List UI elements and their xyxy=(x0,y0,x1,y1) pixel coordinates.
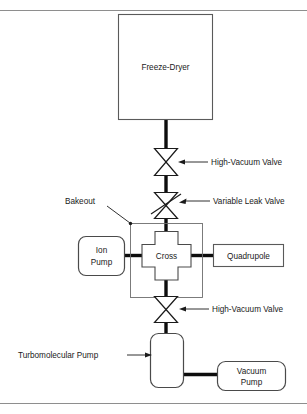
bakeout-label: Bakeout xyxy=(65,197,96,206)
variable-leak-valve-symbol[interactable] xyxy=(151,193,181,219)
variable-leak-valve-label: Variable Leak Valve xyxy=(213,197,285,206)
hv-valve-top-label: High-Vacuum Valve xyxy=(211,158,283,167)
ion-pump-box[interactable] xyxy=(79,237,125,276)
cross-label: Cross xyxy=(156,252,177,261)
vacuum-system-diagram: Freeze-Dryer High-Vacuum Valve Variable … xyxy=(0,0,307,414)
hv-valve-bottom-symbol[interactable] xyxy=(155,297,178,323)
bakeout-leader xyxy=(107,206,132,225)
vacuum-pump-label-line2: Pump xyxy=(241,378,263,387)
turbomolecular-pump-leader xyxy=(127,352,152,357)
ion-pump-label-line2: Pump xyxy=(91,258,113,267)
hv-valve-top-leader xyxy=(178,159,208,164)
turbomolecular-pump-label: Turbomolecular Pump xyxy=(18,351,99,360)
ion-pump-label-line1: Ion xyxy=(96,246,108,255)
turbomolecular-pump-box[interactable] xyxy=(151,334,184,388)
hv-valve-top-symbol[interactable] xyxy=(155,149,178,176)
hv-valve-bottom-label: High-Vacuum Valve xyxy=(212,305,284,314)
variable-leak-valve-leader xyxy=(179,199,210,204)
vacuum-pump-label-line1: Vacuum xyxy=(237,367,267,376)
quadrupole-label: Quadrupole xyxy=(227,252,270,261)
diagram-page: Freeze-Dryer High-Vacuum Valve Variable … xyxy=(0,0,307,414)
freeze-dryer-label: Freeze-Dryer xyxy=(141,63,189,72)
hv-valve-bottom-leader xyxy=(179,306,209,311)
